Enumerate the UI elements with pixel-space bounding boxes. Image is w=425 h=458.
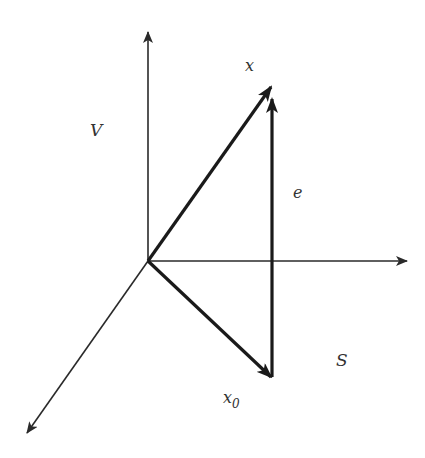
label-x0: x0 <box>223 388 240 411</box>
vector-x <box>148 87 271 261</box>
projection-diagram: V x e S x0 <box>0 0 425 458</box>
label-e: e <box>293 183 302 202</box>
label-x: x <box>245 56 254 75</box>
vector-x0 <box>148 261 271 377</box>
label-x0-base: x <box>223 388 232 407</box>
label-S: S <box>336 350 348 370</box>
diagonal-axis <box>27 261 148 433</box>
label-V: V <box>90 120 104 140</box>
label-x0-subscript: 0 <box>232 397 240 411</box>
